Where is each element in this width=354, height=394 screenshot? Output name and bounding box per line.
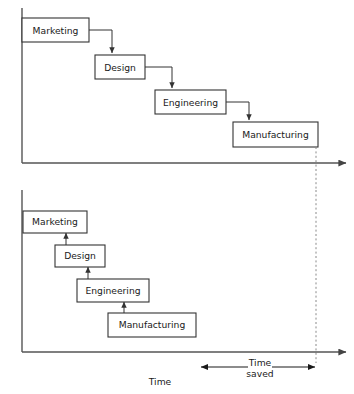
connector-marketing-to-design (89, 30, 112, 53)
stage-label: Engineering (163, 97, 218, 108)
chart-concurrent: Marketing Design Engineering Manufacturi… (22, 190, 346, 352)
stage-label: Design (104, 62, 136, 73)
stage-box-design-sequential: Design (95, 55, 145, 79)
stage-box-engineering-sequential: Engineering (155, 90, 226, 114)
diagram-canvas: Marketing Design Engineering Manufacturi… (0, 0, 354, 394)
stage-box-design-concurrent: Design (55, 245, 105, 267)
stage-label: Marketing (33, 25, 79, 36)
time-saved-label-line1: Time (248, 357, 272, 368)
stage-box-manufacturing-concurrent: Manufacturing (108, 313, 196, 337)
chart-sequential: Marketing Design Engineering Manufacturi… (22, 8, 346, 163)
stage-label: Marketing (32, 216, 78, 227)
time-saved-annotation: Time saved (201, 357, 315, 379)
stage-label: Manufacturing (242, 129, 309, 140)
stage-box-marketing-sequential: Marketing (22, 18, 89, 42)
stage-box-marketing-concurrent: Marketing (23, 211, 87, 233)
stage-label: Design (64, 250, 96, 261)
process-comparison-figure: Marketing Design Engineering Manufacturi… (0, 0, 354, 394)
stage-box-manufacturing-sequential: Manufacturing (233, 122, 318, 147)
connector-engineering-to-manufacturing (226, 102, 249, 120)
stage-label: Engineering (85, 285, 140, 296)
stage-label: Manufacturing (119, 319, 186, 330)
stage-box-engineering-concurrent: Engineering (77, 279, 149, 302)
connector-design-to-engineering (145, 67, 172, 88)
time-saved-label-line2: saved (246, 368, 273, 379)
time-axis-label: Time (148, 376, 172, 387)
